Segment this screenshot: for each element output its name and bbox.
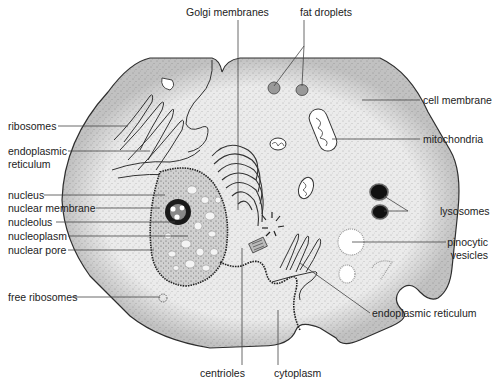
label-nuclear-pore: nuclear pore (8, 244, 66, 256)
label-ribosomes: ribosomes (8, 120, 56, 132)
label-cell-membrane: cell membrane (423, 94, 492, 106)
label-endoplasmic-reticulum-bottom: endoplasmic reticulum (372, 307, 476, 319)
label-endoplasmic-reticulum-top-line1: endoplasmic (8, 145, 67, 157)
label-golgi-membranes: Golgi membranes (186, 6, 269, 18)
label-mitochondria: mitochondria (423, 133, 483, 145)
label-nucleolus: nucleolus (8, 216, 52, 228)
label-nucleus: nucleus (8, 189, 44, 201)
label-pinocytic-vesicles-line1: pinocytic (447, 236, 488, 248)
nucleolus (165, 199, 191, 225)
label-lysosomes: lysosomes (440, 205, 490, 217)
label-cytoplasm: cytoplasm (274, 367, 321, 379)
cell-diagram (0, 0, 493, 382)
label-endoplasmic-reticulum-top-line2: reticulum (8, 158, 51, 170)
label-nucleoplasm: nucleoplasm (8, 230, 67, 242)
label-free-ribosomes: free ribosomes (8, 291, 77, 303)
label-nuclear-membrane: nuclear membrane (8, 202, 96, 214)
label-pinocytic-vesicles-line2: vesicles (451, 249, 488, 261)
label-centrioles: centrioles (200, 367, 245, 379)
label-fat-droplets: fat droplets (300, 6, 352, 18)
